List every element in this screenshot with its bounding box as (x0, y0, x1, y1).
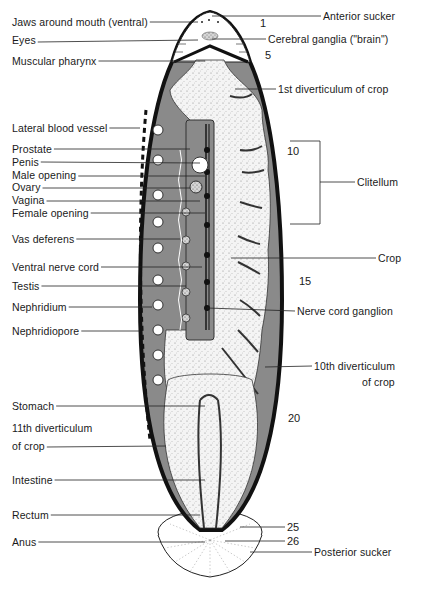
label-cerebral-ganglia: Cerebral ganglia ("brain") (268, 33, 388, 45)
label-1st-diverticulum: 1st diverticulum of crop (278, 83, 388, 95)
label-nephridium: Nephridium (12, 301, 67, 313)
label-nerve-cord-ganglion: Nerve cord ganglion (297, 305, 393, 317)
segment-number-1: 1 (260, 17, 266, 29)
label-vas-deferens: Vas deferens (12, 233, 74, 245)
leader-line (47, 446, 166, 447)
label-crop: Crop (378, 252, 401, 264)
label-prostate: Prostate (12, 143, 52, 155)
label-10th-diverticulum-line2: of crop (362, 376, 395, 388)
label-nephridiopore: Nephridiopore (12, 325, 79, 337)
label-rectum: Rectum (12, 509, 49, 521)
label-anterior-sucker: Anterior sucker (323, 10, 395, 22)
segment-number-20: 20 (288, 412, 300, 424)
label-penis: Penis (12, 156, 39, 168)
leader-line (38, 40, 198, 42)
segment-number-5: 5 (265, 49, 271, 61)
label-posterior-sucker: Posterior sucker (314, 546, 391, 558)
penis-shape (192, 157, 208, 173)
label-anus: Anus (12, 536, 36, 548)
label-stomach: Stomach (12, 400, 54, 412)
label-female-opening: Female opening (12, 207, 89, 219)
label-lateral-blood-vessel: Lateral blood vessel (12, 122, 107, 134)
label-muscular-pharynx: Muscular pharynx (12, 55, 96, 67)
label-intestine: Intestine (12, 474, 53, 486)
label-male-opening: Male opening (12, 169, 76, 181)
label-clitellum: Clitellum (357, 176, 398, 188)
label-ovary: Ovary (12, 181, 41, 193)
label-eyes: Eyes (12, 34, 36, 46)
label-11th-diverticulum: 11th diverticulum (12, 422, 92, 434)
label-testis: Testis (12, 280, 39, 292)
segment-number-26: 26 (287, 535, 299, 547)
label-vagina: Vagina (12, 194, 45, 206)
segment-number-10: 10 (287, 145, 299, 157)
label-10th-diverticulum: 10th diverticulum (314, 360, 395, 372)
ovary-shape (190, 181, 202, 193)
label-jaws: Jaws around mouth (ventral) (12, 16, 148, 28)
leech-anatomy-figure: Jaws around mouth (ventral) Eyes Muscula… (0, 0, 422, 589)
segment-number-25: 25 (287, 521, 299, 533)
segment-number-15: 15 (299, 275, 311, 287)
label-11th-diverticulum-line2: of crop (12, 440, 45, 452)
label-ventral-nerve-cord: Ventral nerve cord (12, 261, 99, 273)
